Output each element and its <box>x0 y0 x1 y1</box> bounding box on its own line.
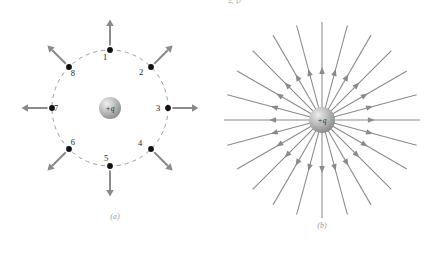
field-line <box>324 128 347 215</box>
point-label-8: 8 <box>71 68 75 78</box>
field-line-arrowhead <box>271 129 278 134</box>
field-point-1: 1 <box>103 20 114 63</box>
field-point-4: 4 <box>138 138 173 171</box>
field-line-arrowhead <box>331 69 336 76</box>
field-line-arrowhead <box>296 74 302 81</box>
field-line-arrowhead <box>307 164 312 171</box>
field-line-shaft <box>253 126 317 190</box>
point-dot-2 <box>148 64 154 70</box>
field-line-arrowhead <box>307 69 312 76</box>
field-line <box>330 122 417 145</box>
field-line <box>319 22 325 112</box>
clipped-caption-text: g p <box>228 0 443 4</box>
field-line-arrowhead <box>319 166 325 173</box>
field-line <box>224 117 314 123</box>
field-line-arrowhead <box>269 117 276 123</box>
field-line <box>227 122 314 145</box>
point-label-4: 4 <box>138 138 143 148</box>
field-vector-6 <box>47 152 65 170</box>
field-line-arrowhead <box>343 74 349 81</box>
field-line-arrowhead <box>271 105 278 110</box>
field-line-shaft <box>330 122 417 145</box>
field-line-shaft <box>324 25 347 112</box>
field-line <box>253 51 317 115</box>
field-vector-2 <box>154 45 172 63</box>
field-vector-5 <box>106 171 114 197</box>
charge-label: +q <box>318 116 327 125</box>
field-line-shaft <box>328 126 392 190</box>
point-label-2: 2 <box>139 67 143 77</box>
field-line-arrowhead <box>366 105 373 110</box>
field-line-arrowhead <box>368 117 375 123</box>
field-line-arrowhead <box>360 141 367 147</box>
charge-label: +q <box>106 104 115 113</box>
figure-canvas: 12345678+q(a) +q(b) <box>0 0 443 255</box>
field-line <box>324 25 347 112</box>
field-line <box>328 126 392 190</box>
field-line-shaft <box>297 25 320 112</box>
field-vector-3 <box>173 104 199 112</box>
field-point-7: 7 <box>22 103 59 113</box>
field-line-shaft <box>297 128 320 215</box>
panel-b-caption: (b) <box>317 221 327 230</box>
field-vector-1 <box>106 20 114 46</box>
field-line-shaft <box>227 95 314 118</box>
field-line <box>253 126 317 190</box>
point-dot-4 <box>148 146 154 152</box>
field-point-2: 2 <box>139 45 173 77</box>
point-charge-b: +q <box>309 107 335 133</box>
point-dot-3 <box>165 105 171 111</box>
field-line-arrowhead <box>276 94 283 100</box>
point-label-3: 3 <box>156 103 160 113</box>
field-line-arrowhead <box>276 141 283 147</box>
field-line-arrowhead <box>331 164 336 171</box>
field-point-3: 3 <box>156 103 199 113</box>
field-line-arrowhead <box>296 158 302 165</box>
field-point-5: 5 <box>104 153 114 197</box>
field-vector-8 <box>47 45 65 63</box>
field-line-arrowhead <box>366 129 373 134</box>
field-line-shaft <box>330 95 417 118</box>
field-line-arrowhead <box>360 94 367 100</box>
panel-a-caption: (a) <box>110 212 120 221</box>
field-line <box>227 95 314 118</box>
field-line <box>328 51 392 115</box>
field-line <box>319 128 325 218</box>
point-label-6: 6 <box>71 137 75 147</box>
field-vector-7 <box>22 104 48 112</box>
field-point-6: 6 <box>47 137 75 171</box>
field-line <box>330 117 420 123</box>
field-vector-4 <box>154 152 172 170</box>
field-point-8: 8 <box>47 45 75 78</box>
point-charge-a: +q <box>99 97 121 119</box>
electric-field-figure: g p 12345678+q(a) +q(b) <box>0 0 443 255</box>
point-label-7: 7 <box>54 103 58 113</box>
field-line <box>297 128 320 215</box>
point-label-1: 1 <box>103 52 107 62</box>
panel-b: +q(b) <box>224 22 420 230</box>
field-line-shaft <box>324 128 347 215</box>
field-line-shaft <box>227 122 314 145</box>
point-label-5: 5 <box>104 153 108 163</box>
field-line <box>297 25 320 112</box>
field-line-arrowhead <box>343 158 349 165</box>
field-line-shaft <box>328 51 392 115</box>
field-line-shaft <box>253 51 317 115</box>
panel-a: 12345678+q(a) <box>22 20 199 222</box>
field-line-arrowhead <box>319 67 325 74</box>
point-dot-1 <box>107 47 113 53</box>
point-dot-5 <box>107 163 113 169</box>
field-line <box>330 95 417 118</box>
